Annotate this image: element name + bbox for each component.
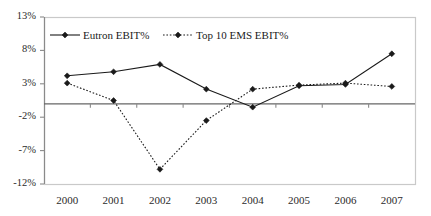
x-axis-tick-label: 2004: [229, 194, 277, 206]
y-axis-tick-label: -2%: [0, 110, 36, 121]
x-axis-tick-label: 2002: [136, 194, 184, 206]
y-axis-tick-label: -12%: [0, 177, 36, 188]
y-axis-tick-label: 13%: [0, 10, 36, 21]
x-axis-tick-label: 2001: [90, 194, 138, 206]
y-axis-tick-label: 3%: [0, 77, 36, 88]
legend-item-eutron: Eutron EBIT%: [83, 29, 149, 41]
x-axis-tick-label: 2005: [275, 194, 323, 206]
y-axis-ticks: [40, 17, 44, 184]
x-axis-tick-label: 2006: [321, 194, 369, 206]
y-axis-tick-label: -7%: [0, 144, 36, 155]
chart-container: 13%8%3%-2%-7%-12% 2000200120022003200420…: [0, 0, 431, 216]
plot-frame: [45, 17, 416, 185]
y-axis-tick-label: 8%: [0, 43, 36, 54]
x-axis-tick-label: 2007: [368, 194, 416, 206]
data-series-group: [64, 51, 394, 172]
legend-item-top10-ems: Top 10 EMS EBIT%: [196, 29, 288, 41]
x-axis-tick-label: 2003: [182, 194, 230, 206]
x-axis-tick-label: 2000: [43, 194, 91, 206]
